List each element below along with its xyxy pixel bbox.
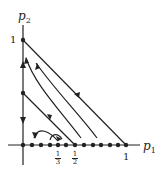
trajectory-curve bbox=[36, 63, 97, 138]
y-axis-label: p2 bbox=[18, 10, 31, 25]
arrow-icon bbox=[32, 132, 38, 139]
trajectory-curve bbox=[26, 58, 81, 138]
trajectory-line bbox=[23, 93, 75, 145]
x-tick-one-third: 13 bbox=[54, 151, 62, 166]
x-tick-one: 1 bbox=[123, 152, 129, 162]
arrow-icon bbox=[20, 117, 26, 124]
x-axis-label: p1 bbox=[143, 140, 156, 155]
x-tick-one-half: 12 bbox=[71, 151, 79, 166]
phase-diagram bbox=[0, 0, 165, 177]
arrow-icon bbox=[24, 57, 29, 64]
y-tick-one: 1 bbox=[10, 35, 16, 45]
trajectory-loop bbox=[34, 131, 58, 141]
